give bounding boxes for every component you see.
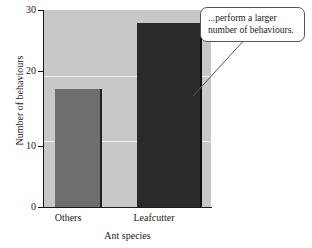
y-tick-mark-10 (38, 146, 44, 147)
bar-leafcutter (137, 23, 202, 207)
x-tick-label-others: Others (38, 212, 98, 224)
x-tick-label-leafcutter: Leafcutter (114, 212, 194, 224)
y-tick-mark-30 (38, 10, 44, 11)
y-tick-mark-20 (38, 71, 44, 72)
y-axis-title: Number of behaviours (14, 26, 25, 176)
y-tick-label-30: 30 (0, 5, 36, 15)
bar-chart-figure: 30 20 10 0 Others Leafcutter Number of b… (0, 0, 312, 248)
x-axis-line (43, 207, 212, 208)
y-axis-line (43, 10, 44, 208)
x-axis-title: Ant species (44, 230, 211, 241)
annotation-callout: ...perform a larger number of behaviours… (200, 7, 305, 42)
y-tick-label-0: 0 (0, 202, 36, 212)
bar-others (55, 89, 102, 207)
y-tick-mark-0 (38, 207, 44, 208)
plot-area (44, 10, 211, 207)
